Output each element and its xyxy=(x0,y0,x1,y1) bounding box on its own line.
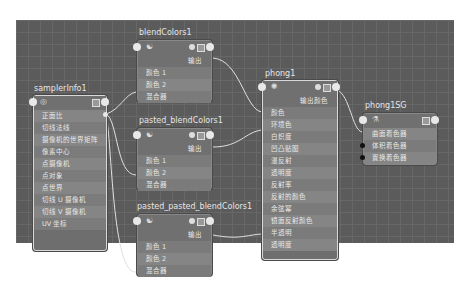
swatch-icon[interactable] xyxy=(315,84,321,90)
output-port[interactable] xyxy=(206,131,214,139)
input-port[interactable] xyxy=(133,131,141,139)
attr-row[interactable]: 正面比 xyxy=(34,110,106,122)
attr-row[interactable]: UV 坐标 xyxy=(34,218,106,230)
attr-row[interactable]: 颜色 2 xyxy=(138,253,211,265)
node-title-phong1: phong1 xyxy=(265,69,295,78)
attr-row[interactable]: 点摄像机 xyxy=(34,158,106,170)
output-port[interactable] xyxy=(206,217,214,225)
node-phong1sg[interactable]: ⚗ 曲面着色器 体积着色器 置换着色器 xyxy=(363,113,437,165)
node-header: ⚗ xyxy=(364,114,436,128)
attr-row[interactable]: 点世界 xyxy=(34,182,106,194)
attr-row[interactable]: 透明度 xyxy=(263,167,337,179)
attr-row[interactable]: 混合器 xyxy=(138,91,211,103)
node-header: ☯ xyxy=(138,41,211,55)
sun-icon: ✺ xyxy=(271,82,278,91)
node-header: ☯ xyxy=(138,215,211,229)
swirl-icon: ☯ xyxy=(146,42,153,51)
attr-row[interactable]: 漫反射 xyxy=(263,155,337,167)
attr-row[interactable]: 混合器 xyxy=(138,179,211,191)
attr-row[interactable]: 颜色 1 xyxy=(138,67,211,79)
attr-row[interactable]: 颜色 1 xyxy=(138,155,211,167)
attr-row[interactable]: 摄像机的世界矩阵 xyxy=(34,134,106,146)
node-blendcolors1[interactable]: ☯ 输出 颜色 1 颜色 2 混合器 xyxy=(137,40,212,102)
node-phong1[interactable]: ✺ 输出颜色 颜色 环境色 白炽度 凹凸贴图 漫反射 透明度 反射率 反射的颜色… xyxy=(262,80,338,260)
attr-row[interactable]: 镜面反射颜色 xyxy=(263,215,337,227)
attr-row[interactable]: 置换着色器 xyxy=(364,152,436,164)
output-row[interactable]: 输出 xyxy=(138,143,211,155)
node-header: ✺ xyxy=(263,81,337,95)
node-title-pasted-pasted-blendcolors1: pasted_pasted_blendColors1 xyxy=(137,202,252,211)
node-pasted-pasted-blendcolors1[interactable]: ☯ 输出 颜色 1 颜色 2 混合器 xyxy=(137,214,212,276)
output-port[interactable] xyxy=(101,98,109,106)
input-port[interactable] xyxy=(133,217,141,225)
attr-row[interactable]: 颜色 xyxy=(263,107,337,119)
attr-row[interactable]: 反射的颜色 xyxy=(263,191,337,203)
swirl-icon: ☯ xyxy=(146,216,153,225)
input-port[interactable] xyxy=(360,155,365,160)
toggle-icon[interactable] xyxy=(92,99,100,107)
node-samplerinfo1[interactable]: ◎ 正面比 切线法线 摄像机的世界矩阵 像素中心 点摄像机 点对象 点世界 切线… xyxy=(33,95,107,251)
node-header: ☯ xyxy=(138,129,211,143)
toggle-icon[interactable] xyxy=(197,44,205,52)
attr-row[interactable]: 颜色 2 xyxy=(138,167,211,179)
output-port[interactable] xyxy=(103,112,108,117)
node-header: ◎ xyxy=(34,96,106,110)
attr-row[interactable]: 点对象 xyxy=(34,170,106,182)
attr-row[interactable]: 半透明 xyxy=(263,227,337,239)
node-pasted-blendcolors1[interactable]: ☯ 输出 颜色 1 颜色 2 混合器 xyxy=(137,128,212,190)
input-port[interactable] xyxy=(359,116,367,124)
toggle-icon[interactable] xyxy=(197,132,205,140)
attr-row[interactable]: 切线法线 xyxy=(34,122,106,134)
attr-row[interactable]: 颜色 1 xyxy=(138,241,211,253)
node-title-phong1sg: phong1SG xyxy=(365,101,407,110)
attr-row[interactable]: 曲面着色器 xyxy=(364,128,436,140)
toggle-icon[interactable] xyxy=(323,84,331,92)
output-port[interactable] xyxy=(431,116,439,124)
attr-row[interactable]: 体积着色器 xyxy=(364,140,436,152)
input-port[interactable] xyxy=(29,98,37,106)
input-port[interactable] xyxy=(360,143,365,148)
node-title-samplerinfo1: samplerInfo1 xyxy=(34,84,87,93)
attr-row[interactable]: 凹凸贴图 xyxy=(263,143,337,155)
toggle-icon[interactable] xyxy=(422,117,430,125)
input-port[interactable] xyxy=(258,83,266,91)
swatch-icon[interactable] xyxy=(189,218,195,224)
sampler-icon: ◎ xyxy=(40,97,47,106)
input-port[interactable] xyxy=(133,43,141,51)
attr-row[interactable]: 混合器 xyxy=(138,265,211,277)
output-port[interactable] xyxy=(206,43,214,51)
attr-row[interactable]: 透明度 xyxy=(263,239,337,251)
swatch-icon[interactable] xyxy=(189,44,195,50)
attr-row[interactable]: 反射率 xyxy=(263,179,337,191)
node-title-pasted-blendcolors1: pasted_blendColors1 xyxy=(139,116,223,125)
shading-group-icon: ⚗ xyxy=(372,115,379,124)
attr-row[interactable]: 余弦幂 xyxy=(263,203,337,215)
attr-row[interactable]: 切线 V 摄像机 xyxy=(34,206,106,218)
output-row[interactable]: 输出 xyxy=(138,55,211,67)
attr-row[interactable]: 颜色 2 xyxy=(138,79,211,91)
output-row[interactable]: 输出 xyxy=(138,229,211,241)
attr-row[interactable]: 白炽度 xyxy=(263,131,337,143)
swatch-icon[interactable] xyxy=(189,132,195,138)
swirl-icon: ☯ xyxy=(146,130,153,139)
attr-row[interactable]: 像素中心 xyxy=(34,146,106,158)
output-port[interactable] xyxy=(332,83,340,91)
toggle-icon[interactable] xyxy=(197,218,205,226)
attr-row[interactable]: 环境色 xyxy=(263,119,337,131)
node-title-blendcolors1: blendColors1 xyxy=(139,28,192,37)
attr-row[interactable]: 切线 U 摄像机 xyxy=(34,194,106,206)
output-row[interactable]: 输出颜色 xyxy=(263,95,337,107)
